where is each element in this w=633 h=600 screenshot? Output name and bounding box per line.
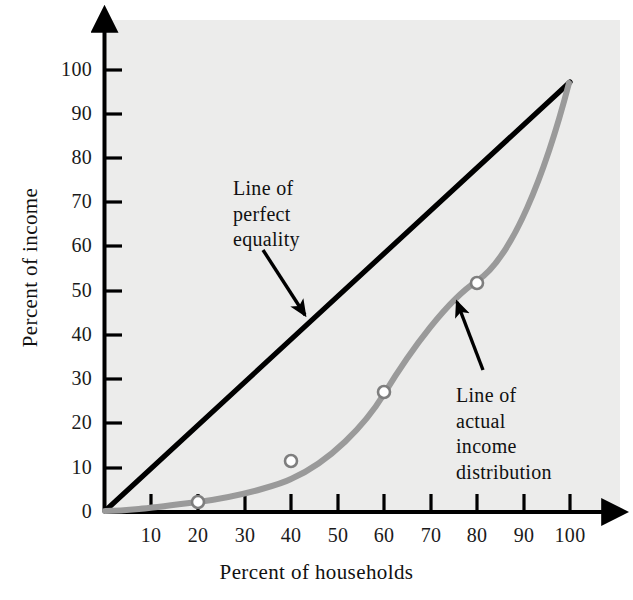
actual-distribution-annotation-arrow: [457, 302, 483, 370]
data-point-60: [378, 386, 390, 398]
y-tick-label-80: 80: [36, 146, 92, 169]
x-tick-label-20: 20: [174, 524, 222, 547]
data-point-40: [285, 455, 297, 467]
x-axis-title: Percent of households: [0, 560, 633, 585]
x-tick-label-90: 90: [500, 524, 548, 547]
x-tick-label-60: 60: [360, 524, 408, 547]
annotation-perfect-equality: Line of perfect equality: [233, 176, 300, 253]
y-tick-label-90: 90: [36, 102, 92, 125]
perfect-equality-annotation-arrow: [263, 250, 305, 315]
annotation-actual-distribution: Line of actual income distribution: [456, 383, 552, 485]
chart-canvas: [0, 0, 633, 600]
data-point-20: [192, 496, 204, 508]
y-axis-ticks: [104, 70, 122, 468]
x-tick-label-50: 50: [314, 524, 362, 547]
x-tick-label-40: 40: [267, 524, 315, 547]
y-tick-label-40: 40: [36, 323, 92, 346]
x-tick-label-100: 100: [546, 524, 594, 547]
y-tick-label-30: 30: [36, 367, 92, 390]
lorenz-curve-figure: 100 90 80 70 60 50 40 30 20 10 0 10 20 3…: [0, 0, 633, 600]
y-tick-label-70: 70: [36, 190, 92, 213]
data-point-80: [471, 277, 483, 289]
y-tick-label-20: 20: [36, 411, 92, 434]
y-tick-label-50: 50: [36, 279, 92, 302]
x-tick-label-10: 10: [127, 524, 175, 547]
y-axis-title: Percent of income: [18, 168, 43, 368]
y-tick-label-0: 0: [36, 500, 92, 523]
x-tick-label-70: 70: [407, 524, 455, 547]
y-tick-label-60: 60: [36, 234, 92, 257]
x-tick-label-80: 80: [453, 524, 501, 547]
y-tick-label-100: 100: [36, 58, 92, 81]
y-tick-label-10: 10: [36, 456, 92, 479]
x-tick-label-30: 30: [221, 524, 269, 547]
